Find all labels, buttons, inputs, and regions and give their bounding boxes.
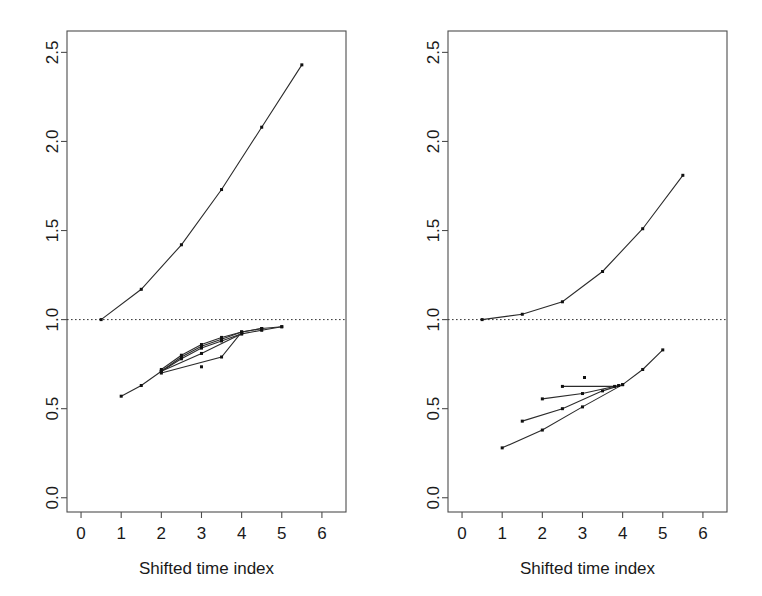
y-tick-label: 0.0 (425, 486, 444, 510)
data-point (583, 376, 586, 379)
x-tick-label: 6 (317, 524, 326, 543)
data-point (581, 392, 584, 395)
data-point (240, 331, 243, 334)
data-point (200, 365, 203, 368)
data-point (180, 243, 183, 246)
y-tick-label: 2.0 (425, 130, 444, 154)
series-line (101, 65, 302, 320)
plot-area-left: 0.00.51.01.52.02.50123456Shifted time in… (0, 0, 381, 596)
x-tick-label: 4 (237, 524, 246, 543)
y-tick-label: 0.5 (44, 397, 63, 421)
data-point (160, 372, 163, 375)
x-tick-label: 1 (116, 524, 125, 543)
x-tick-label: 2 (157, 524, 166, 543)
x-tick-label: 1 (497, 524, 506, 543)
y-tick-label: 1.0 (425, 308, 444, 332)
y-tick-label: 2.5 (425, 41, 444, 65)
plot-area-right: 0.00.51.01.52.02.50123456Shifted time in… (381, 0, 762, 596)
data-point (260, 126, 263, 129)
data-point (541, 397, 544, 400)
figure-container: 0.00.51.01.52.02.50123456Shifted time in… (0, 0, 762, 596)
data-point (220, 336, 223, 339)
y-tick-label: 1.0 (44, 308, 63, 332)
x-tick-label: 0 (76, 524, 85, 543)
data-point (613, 385, 616, 388)
x-tick-label: 2 (538, 524, 547, 543)
data-point (661, 348, 664, 351)
data-point (561, 385, 564, 388)
data-point (180, 354, 183, 357)
x-tick-label: 0 (457, 524, 466, 543)
data-point (541, 429, 544, 432)
data-point (100, 318, 103, 321)
data-point (521, 313, 524, 316)
series-line (161, 327, 281, 372)
data-point (681, 174, 684, 177)
series-line (482, 175, 683, 319)
series-line (542, 386, 618, 399)
data-point (200, 343, 203, 346)
data-point (260, 327, 263, 330)
data-point (581, 405, 584, 408)
data-point (220, 356, 223, 359)
series-line (502, 350, 663, 448)
data-point (280, 325, 283, 328)
data-point (617, 384, 620, 387)
y-tick-label: 1.5 (425, 219, 444, 243)
data-point (561, 407, 564, 410)
x-tick-label: 3 (197, 524, 206, 543)
x-tick-label: 5 (277, 524, 286, 543)
y-tick-label: 1.5 (44, 219, 63, 243)
series-line (522, 385, 622, 422)
data-point (220, 188, 223, 191)
data-point (621, 383, 624, 386)
y-tick-label: 2.0 (44, 130, 63, 154)
x-axis-label: Shifted time index (139, 559, 275, 578)
data-point (300, 63, 303, 66)
x-tick-label: 4 (618, 524, 627, 543)
data-point (641, 368, 644, 371)
data-point (601, 270, 604, 273)
y-tick-label: 0.5 (425, 397, 444, 421)
chart-panel-right: 0.00.51.01.52.02.50123456Shifted time in… (381, 0, 762, 596)
data-point (140, 288, 143, 291)
data-point (200, 352, 203, 355)
y-tick-label: 2.5 (44, 41, 63, 65)
data-point (561, 300, 564, 303)
x-axis-label: Shifted time index (520, 559, 656, 578)
data-point (641, 227, 644, 230)
series-line (121, 327, 282, 396)
data-point (521, 420, 524, 423)
data-point (481, 318, 484, 321)
data-point (120, 395, 123, 398)
x-tick-label: 6 (698, 524, 707, 543)
x-tick-label: 5 (658, 524, 667, 543)
data-point (501, 446, 504, 449)
data-point (140, 384, 143, 387)
y-tick-label: 0.0 (44, 486, 63, 510)
chart-panel-left: 0.00.51.01.52.02.50123456Shifted time in… (0, 0, 381, 596)
x-tick-label: 3 (578, 524, 587, 543)
